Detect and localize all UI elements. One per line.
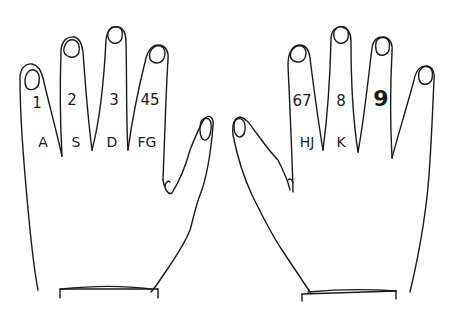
left-little-nail	[25, 70, 39, 90]
hands-diagram: 1 A 2 S 3 D 45 FG 67 HJ 8 K 9	[0, 0, 449, 322]
right-index-letters: HJ	[300, 135, 315, 149]
left-middle-letters: D	[107, 135, 118, 149]
left-middle-nail	[108, 27, 123, 44]
right-middle-number: 8	[336, 94, 346, 108]
right-little-nail	[419, 67, 433, 85]
right-thumb-nail	[234, 119, 245, 137]
left-ring-number: 2	[67, 93, 77, 107]
left-index-letters: FG	[138, 135, 157, 149]
left-middle-number: 3	[109, 93, 119, 107]
right-hand-outline	[233, 27, 434, 301]
right-ring-nail	[376, 38, 390, 56]
right-middle-letters: K	[336, 135, 345, 149]
right-index-nail	[290, 46, 306, 62]
right-index-number: 67	[292, 94, 311, 108]
left-little-number: 1	[32, 96, 42, 110]
left-index-number: 45	[140, 93, 159, 107]
left-ring-nail	[64, 40, 80, 57]
left-index-nail	[149, 46, 165, 63]
hands-outline-drawing	[0, 0, 449, 322]
left-hand-outline	[20, 27, 213, 298]
left-ring-letters: S	[72, 135, 81, 149]
left-thumb-nail	[200, 118, 211, 140]
left-little-letters: A	[38, 135, 48, 149]
right-ring-number: 9	[373, 88, 388, 110]
